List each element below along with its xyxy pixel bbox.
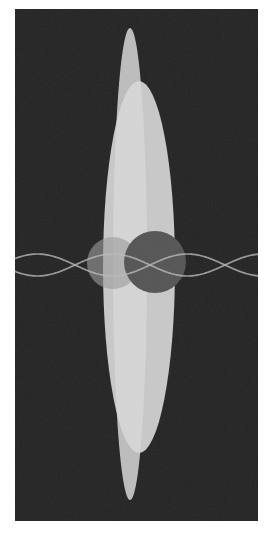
- figure-canvas: [0, 0, 273, 542]
- abstract-figure: [0, 0, 273, 542]
- grain-texture: [15, 9, 258, 521]
